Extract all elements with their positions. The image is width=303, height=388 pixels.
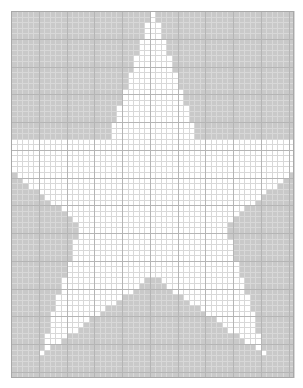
star-grid-canvas (0, 0, 303, 388)
star-grid-figure (0, 0, 303, 388)
